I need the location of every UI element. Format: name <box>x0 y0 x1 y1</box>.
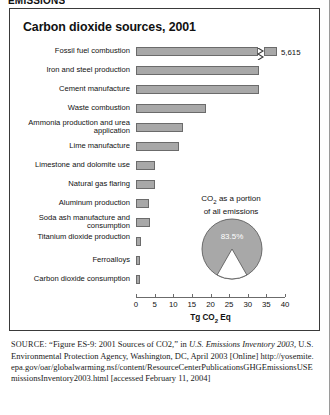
x-axis-tick <box>192 294 193 297</box>
bar-segment-broken <box>136 47 258 56</box>
source-text-1: “Figure ES-9: 2001 Sources of CO2,” in <box>47 339 189 349</box>
bar-label: Titanium dioxide production <box>10 233 130 242</box>
source-italic-2: Inventory 2003, <box>242 339 296 349</box>
x-axis-tick-label: 15 <box>184 300 200 309</box>
source-label: SOURCE: <box>11 340 47 349</box>
source-italic-1: U.S. Emissions <box>189 339 240 349</box>
bar-label: Limestone and dolomite use <box>10 161 130 170</box>
bar-label: Natural gas flaring <box>10 180 130 189</box>
x-axis-tick-label: 30 <box>240 300 256 309</box>
bar-label: Waste combustion <box>10 104 130 113</box>
x-axis-tick-label: 20 <box>203 300 219 309</box>
bar-label: Cement manufacture <box>10 85 130 94</box>
x-axis-tick-label: 40 <box>277 300 293 309</box>
pie-caption: CO2 as a portionof all emissions <box>176 194 286 216</box>
bar-label: Ferroalloys <box>10 256 130 265</box>
x-axis-tick-label: 35 <box>258 300 274 309</box>
x-axis-tick <box>173 294 174 297</box>
pie-slice-label: 83.5% <box>212 232 252 241</box>
bar <box>136 104 206 113</box>
bar-label: Ammonia production and urea application <box>10 119 130 136</box>
x-axis-tick <box>266 294 267 297</box>
x-axis-line <box>136 297 285 298</box>
x-axis-tick-label: 10 <box>165 300 181 309</box>
bar <box>136 161 155 170</box>
bar-label: Aluminum production <box>10 199 130 208</box>
x-axis-title: Tg CO2 Eq <box>126 313 295 324</box>
bar <box>136 142 179 151</box>
bar <box>136 199 149 208</box>
bar-label: Iron and steel production <box>10 66 130 75</box>
x-axis-tick <box>155 294 156 297</box>
x-axis-tick <box>229 294 230 297</box>
bar-value-label: 5,615 <box>281 48 301 57</box>
x-axis-tick-label: 25 <box>221 300 237 309</box>
running-head: EMISSIONS <box>8 0 65 5</box>
x-axis-tick-label: 5 <box>147 300 163 309</box>
bar <box>136 256 140 265</box>
x-axis-tick <box>211 294 212 297</box>
bar-segment-stub <box>264 47 277 56</box>
bar <box>136 123 183 132</box>
axis-break-icon <box>257 46 264 57</box>
bar <box>136 237 141 246</box>
bar <box>136 180 155 189</box>
bar <box>136 66 259 75</box>
x-axis-tick <box>136 294 137 297</box>
bar <box>136 218 150 227</box>
pie-chart <box>201 218 263 280</box>
x-axis-tick <box>285 294 286 297</box>
bar-label: Lime manufacture <box>10 142 130 151</box>
source-text-3: [accessed February 11, 2004] <box>109 373 211 383</box>
bar-label: Soda ash manufacture and consumption <box>10 214 130 231</box>
figure-page: EMISSIONS Carbon dioxide sources, 2001 F… <box>0 0 330 415</box>
bar-chart: Fossil fuel combustion5,615Iron and stee… <box>10 9 321 332</box>
x-axis-tick <box>248 294 249 297</box>
x-axis-tick-label: 0 <box>128 300 144 309</box>
source-note: SOURCE: “Figure ES-9: 2001 Sources of CO… <box>11 339 317 384</box>
figure-box: Carbon dioxide sources, 2001 Fossil fuel… <box>9 8 320 331</box>
bar <box>136 85 259 94</box>
bar <box>136 275 140 284</box>
bar-label: Carbon dioxide consumption <box>10 275 130 284</box>
bar-label: Fossil fuel combustion <box>10 47 130 56</box>
